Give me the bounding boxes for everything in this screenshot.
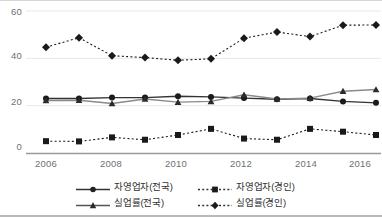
chart-legend: 자영업자(전국) 자영업자(경인) xyxy=(0,177,382,211)
data-point-marker xyxy=(307,126,313,132)
y-tick-label-60: 60 xyxy=(0,6,22,17)
legend-label: 실업률(경인) xyxy=(236,195,286,209)
legend-item-silup-gyeongin[interactable]: 실업률(경인) xyxy=(198,195,306,209)
series-lines xyxy=(46,25,376,141)
data-point-marker xyxy=(241,136,247,142)
data-point-marker xyxy=(174,56,182,64)
data-point-marker xyxy=(339,21,347,29)
data-point-marker xyxy=(208,126,214,132)
data-point-marker xyxy=(240,34,248,42)
data-point-marker xyxy=(75,34,83,42)
x-tick-label-2008: 2008 xyxy=(90,158,132,169)
legend-row-1: 자영업자(전국) 자영업자(경인) xyxy=(76,179,306,193)
data-point-marker xyxy=(340,129,346,135)
chart-container: 60 40 20 0 2006 2008 2010 2012 2014 2016… xyxy=(0,0,382,217)
x-tick-label-2012: 2012 xyxy=(220,158,262,169)
data-point-marker xyxy=(373,100,379,106)
data-point-marker xyxy=(42,43,50,51)
data-point-marker xyxy=(306,33,314,41)
data-point-marker xyxy=(274,137,280,143)
legend-row-2: 실업률(전국) 실업률(경인) xyxy=(76,195,306,209)
x-tick-label-2010: 2010 xyxy=(155,158,197,169)
data-point-marker xyxy=(373,132,379,138)
data-point-marker xyxy=(43,138,49,144)
data-point-marker xyxy=(175,132,181,138)
data-point-marker xyxy=(340,98,346,104)
square-marker-icon xyxy=(198,181,232,192)
data-point-marker xyxy=(175,93,181,99)
triangle-marker-icon xyxy=(76,197,110,208)
gridlines xyxy=(26,11,381,153)
data-point-marker xyxy=(109,134,115,140)
data-point-marker xyxy=(109,95,115,101)
chart-bottom-divider xyxy=(0,215,382,217)
y-tick-label-20: 20 xyxy=(0,96,22,107)
plot-area xyxy=(26,3,381,158)
y-tick-label-0: 0 xyxy=(0,141,22,152)
x-tick-label-2014: 2014 xyxy=(285,158,327,169)
legend-item-silup-jeonguk[interactable]: 실업률(전국) xyxy=(76,195,184,209)
data-point-marker xyxy=(141,54,149,62)
data-point-marker xyxy=(76,138,82,144)
legend-label: 자영업자(경인) xyxy=(236,179,295,193)
data-point-marker xyxy=(273,28,281,36)
series-markers xyxy=(42,21,380,144)
data-point-marker xyxy=(207,55,215,63)
chart-top-divider xyxy=(0,0,382,1)
legend-item-jayeong-gyeongin[interactable]: 자영업자(경인) xyxy=(198,179,306,193)
circle-marker-icon xyxy=(76,181,110,192)
legend-label: 실업률(전국) xyxy=(114,195,164,209)
x-tick-label-2016: 2016 xyxy=(340,158,380,169)
legend-item-jayeong-jeonguk[interactable]: 자영업자(전국) xyxy=(76,179,184,193)
diamond-marker-icon xyxy=(198,197,232,208)
y-tick-label-40: 40 xyxy=(0,50,22,61)
x-tick-label-2006: 2006 xyxy=(25,158,67,169)
data-point-marker xyxy=(372,21,380,29)
data-point-marker xyxy=(142,137,148,143)
legend-label: 자영업자(전국) xyxy=(114,179,173,193)
